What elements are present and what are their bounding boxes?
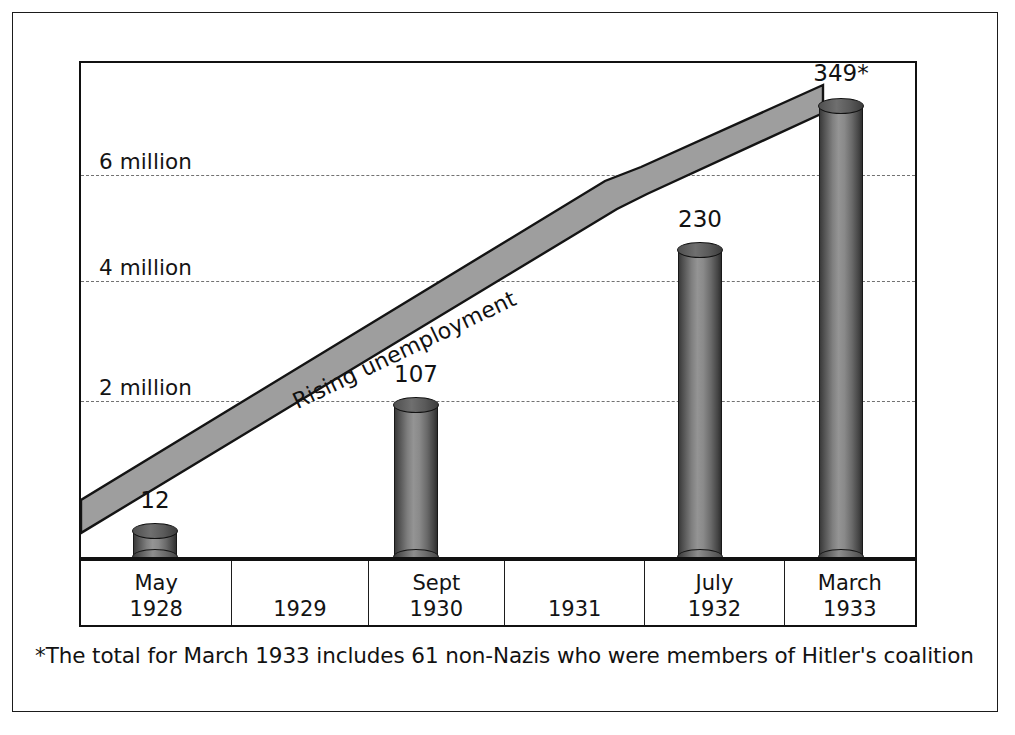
x-axis-year: 1929	[273, 599, 326, 621]
x-axis-cell-1929: 1929	[232, 561, 368, 625]
bar-value-label: 12	[140, 487, 169, 513]
x-axis-year: 1928	[129, 599, 182, 621]
bar-top-cap	[393, 397, 439, 413]
bar-value-label: 107	[394, 361, 438, 387]
gridline-6-million	[81, 175, 915, 176]
bar-value-label: 230	[678, 206, 722, 232]
bar-body	[678, 250, 722, 557]
x-axis-cell-sept-1930: Sept 1930	[369, 561, 505, 625]
x-axis-month: March	[818, 573, 882, 597]
x-axis-cell-may-1928: May 1928	[81, 561, 232, 625]
chart-footnote: *The total for March 1933 includes 61 no…	[35, 643, 974, 668]
x-axis-month: May	[134, 573, 177, 597]
bar-body	[394, 405, 438, 557]
bar-july-1932: 230	[678, 250, 722, 557]
bar-top-cap	[818, 98, 864, 114]
x-axis-year: 1933	[823, 599, 876, 621]
x-axis-year: 1931	[548, 599, 601, 621]
x-axis-table: May 1928 1929 Sept 1930 1931 July 1932 M…	[79, 559, 917, 627]
figure-frame: Rising unemployment 6 million 4 million …	[12, 12, 998, 712]
chart-plot-area: Rising unemployment 6 million 4 million …	[79, 61, 917, 559]
gridline-4-million	[81, 281, 915, 282]
bar-body	[819, 106, 863, 557]
plot-clip: Rising unemployment 6 million 4 million …	[81, 63, 915, 557]
y-axis-label-2-million: 2 million	[99, 375, 192, 400]
ribbon-label: Rising unemployment	[289, 286, 521, 414]
x-axis-cell-march-1933: March 1933	[785, 561, 915, 625]
bar-march-1933: 349*	[819, 106, 863, 557]
bar-value-label: 349*	[813, 63, 868, 86]
x-axis-year: 1932	[688, 599, 741, 621]
x-axis-year: 1930	[410, 599, 463, 621]
y-axis-label-4-million: 4 million	[99, 255, 192, 280]
bar-top-cap	[132, 523, 178, 539]
x-axis-month: Sept	[412, 573, 460, 597]
x-axis-month: July	[696, 573, 734, 597]
gridline-2-million	[81, 401, 915, 402]
x-axis-cell-july-1932: July 1932	[645, 561, 784, 625]
x-axis-cell-1931: 1931	[505, 561, 645, 625]
bar-may-1928: 12	[133, 531, 177, 557]
y-axis-label-6-million: 6 million	[99, 149, 192, 174]
bar-sept-1930: 107	[394, 405, 438, 557]
bar-top-cap	[677, 242, 723, 258]
